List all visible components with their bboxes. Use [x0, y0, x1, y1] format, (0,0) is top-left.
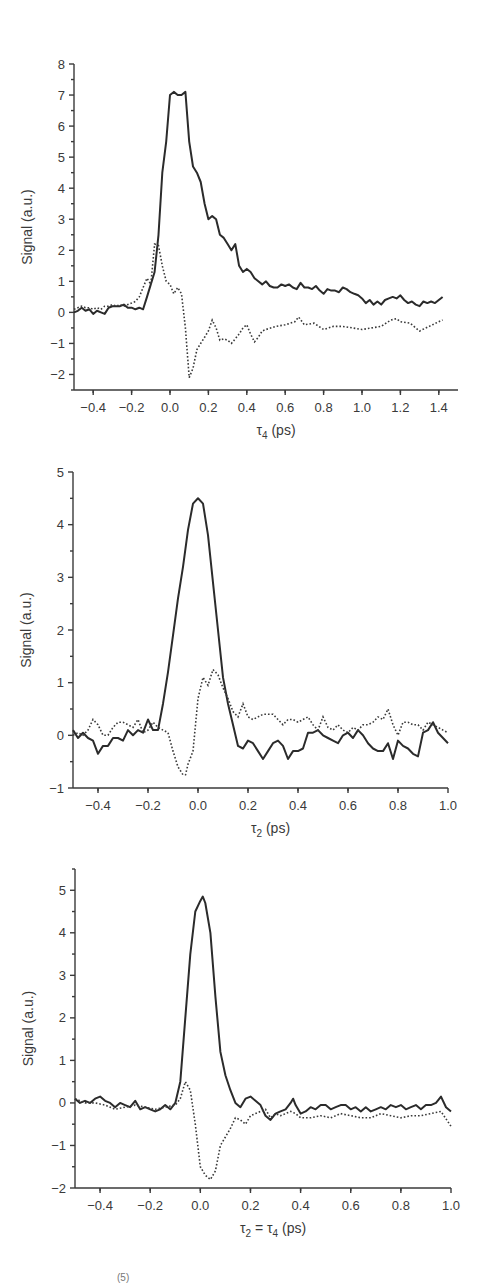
x-tick-label: 0.2	[241, 1198, 259, 1213]
x-tick-label: 0.4	[292, 1198, 310, 1213]
x-axis-title: τ4 (ps)	[256, 422, 295, 441]
y-tick-label: 5	[59, 883, 66, 898]
y-tick-label: 5	[57, 465, 64, 480]
x-tick-label: 0.6	[339, 798, 357, 813]
x-tick-label: 0.2	[199, 400, 217, 415]
y-tick-label: 3	[57, 570, 64, 585]
x-tick-label: 1.2	[391, 400, 409, 415]
x-tick-label: −0.2	[137, 1198, 163, 1213]
x-tick-label: 0.8	[315, 400, 333, 415]
y-tick-label: 0	[57, 728, 64, 743]
y-tick-label: 2	[58, 243, 65, 258]
x-tick-label: −0.4	[80, 400, 106, 415]
x-tick-label: −0.2	[135, 798, 161, 813]
dotted-signal-trace	[75, 1082, 451, 1180]
x-tick-label: 1.0	[442, 1198, 460, 1213]
solid-signal-trace	[75, 897, 451, 1120]
y-tick-label: 5	[58, 150, 65, 165]
x-tick-label: −0.2	[119, 400, 145, 415]
x-tick-label: 0.0	[191, 1198, 209, 1213]
y-tick-label: 3	[59, 968, 66, 983]
y-tick-label: 4	[58, 181, 65, 196]
y-tick-label: 1	[59, 1053, 66, 1068]
x-tick-label: 0.0	[161, 400, 179, 415]
figure-footnote: (5)	[117, 1272, 129, 1283]
y-tick-label: −2	[50, 367, 65, 382]
chart-tau2-equals-tau4: −2−1012345−0.4−0.20.00.20.40.60.81.0Sign…	[20, 869, 460, 1239]
y-tick-label: −1	[49, 781, 64, 796]
y-tick-label: 3	[58, 212, 65, 227]
x-tick-label: 0.4	[238, 400, 256, 415]
x-tick-label: 0.2	[239, 798, 257, 813]
x-tick-label: −0.4	[87, 1198, 113, 1213]
chart-tau2: −1012345−0.4−0.20.00.20.40.60.81.0Signal…	[18, 465, 457, 840]
x-tick-label: 1.0	[353, 400, 371, 415]
x-tick-label: 0.8	[389, 798, 407, 813]
x-tick-label: 0.0	[189, 798, 207, 813]
x-axis-title: τ2 (ps)	[251, 820, 290, 839]
dotted-signal-trace	[73, 670, 448, 775]
y-tick-label: 2	[57, 623, 64, 638]
x-tick-label: 1.4	[430, 400, 448, 415]
x-axis-title: τ2 = τ4 (ps)	[240, 1220, 306, 1239]
y-tick-label: 1	[58, 274, 65, 289]
chart-tau4: −2−1012345678−0.4−0.20.00.20.40.60.81.01…	[19, 57, 458, 442]
solid-signal-trace	[74, 92, 443, 314]
x-tick-label: 0.8	[392, 1198, 410, 1213]
y-tick-label: 4	[59, 925, 66, 940]
y-tick-label: 0	[58, 305, 65, 320]
y-tick-label: 8	[58, 57, 65, 72]
y-tick-label: −1	[51, 1138, 66, 1153]
y-axis-title: Signal (a.u.)	[20, 991, 36, 1066]
y-tick-label: 2	[59, 1010, 66, 1025]
y-tick-label: 6	[58, 119, 65, 134]
y-tick-label: 1	[57, 675, 64, 690]
x-tick-label: 1.0	[439, 798, 457, 813]
x-tick-label: 0.4	[289, 798, 307, 813]
y-tick-label: −2	[51, 1181, 66, 1196]
dotted-signal-trace	[74, 244, 443, 378]
x-tick-label: 0.6	[342, 1198, 360, 1213]
y-tick-label: −1	[50, 336, 65, 351]
y-tick-label: 4	[57, 517, 64, 532]
x-tick-label: 0.6	[276, 400, 294, 415]
y-tick-label: 7	[58, 88, 65, 103]
y-axis-title: Signal (a.u.)	[18, 592, 34, 667]
y-tick-label: 0	[59, 1095, 66, 1110]
figure-canvas: −2−1012345678−0.4−0.20.00.20.40.60.81.01…	[0, 0, 482, 1288]
y-axis-title: Signal (a.u.)	[19, 189, 35, 264]
x-tick-label: −0.4	[85, 798, 111, 813]
